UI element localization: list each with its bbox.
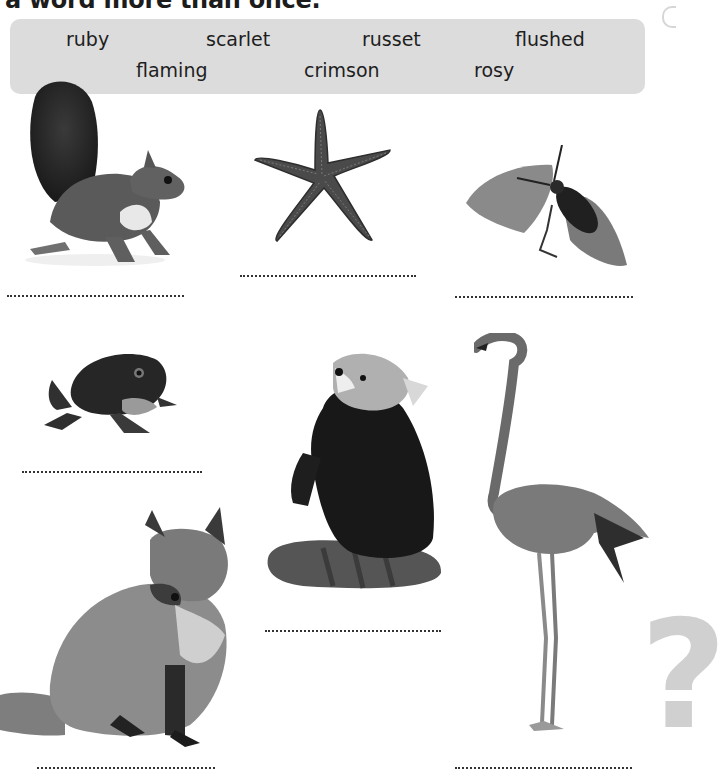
flamingo-image xyxy=(474,333,654,738)
corner-decoration xyxy=(662,6,676,28)
fox-image xyxy=(0,505,240,750)
word-ruby: ruby xyxy=(66,28,109,50)
answer-line-squirrel[interactable] xyxy=(7,295,184,297)
word-rosy: rosy xyxy=(474,59,514,81)
squirrel-image xyxy=(10,72,195,272)
word-russet: russet xyxy=(362,28,421,50)
red-panda-image xyxy=(263,348,448,593)
answer-line-red-panda[interactable] xyxy=(265,630,441,632)
answer-line-starfish[interactable] xyxy=(240,275,416,277)
beetle-image xyxy=(462,145,632,275)
answer-line-fox[interactable] xyxy=(37,767,215,769)
answer-line-flamingo[interactable] xyxy=(455,767,632,769)
word-scarlet: scarlet xyxy=(206,28,270,50)
frog-image xyxy=(42,345,182,440)
word-flushed: flushed xyxy=(515,28,585,50)
answer-line-frog[interactable] xyxy=(22,471,202,473)
answer-line-beetle[interactable] xyxy=(455,296,633,298)
instruction-heading: a word more than once. xyxy=(5,0,320,14)
word-crimson: crimson xyxy=(304,59,380,81)
starfish-image xyxy=(252,108,394,248)
